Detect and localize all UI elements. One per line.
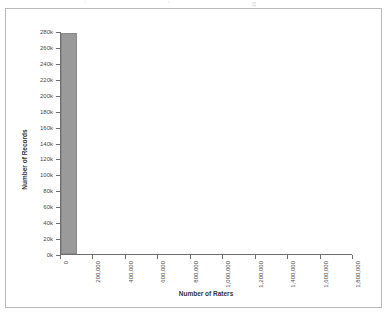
x-axis-tick (320, 255, 321, 259)
y-axis-tick (56, 175, 60, 176)
y-axis-tick-label: 40k (43, 220, 53, 226)
y-axis-tick (56, 144, 60, 145)
y-axis-tick-label: 0k (47, 252, 53, 258)
y-axis-tick (56, 80, 60, 81)
y-axis-tick (56, 112, 60, 113)
clipped-text-artifacts: ''g (0, 0, 388, 7)
plot-area: 0k20k40k60k80k100k120k140k160k180k200k22… (60, 32, 352, 255)
y-axis-tick (56, 239, 60, 240)
y-axis-tick (56, 128, 60, 129)
y-axis-tick-label: 200k (40, 93, 53, 99)
x-axis-tick-label: 1,200,000 (258, 261, 264, 288)
y-axis-tick (56, 48, 60, 49)
x-axis-tick-label: 600,000 (160, 261, 166, 283)
y-axis-tick-label: 280k (40, 29, 53, 35)
y-axis-tick-label: 20k (43, 236, 53, 242)
y-axis-tick-label: 160k (40, 125, 53, 131)
x-axis-tick-label: 800,000 (193, 261, 199, 283)
x-axis-tick (287, 255, 288, 259)
chart-figure-frame: Number of Records 0k20k40k60k80k100k120k… (5, 8, 382, 308)
y-axis-tick (56, 64, 60, 65)
x-axis-tick-label: 0 (63, 261, 69, 264)
y-axis-tick (56, 223, 60, 224)
x-axis-tick-label: 1,600,000 (323, 261, 329, 288)
clipped-glyph: g (252, 0, 256, 7)
x-axis-tick (222, 255, 223, 259)
x-axis-line (60, 254, 352, 255)
bar (61, 33, 77, 254)
y-axis-tick-label: 220k (40, 77, 53, 83)
y-axis-tick-label: 260k (40, 45, 53, 51)
x-axis-tick (190, 255, 191, 259)
x-axis-tick (352, 255, 353, 259)
y-axis-tick (56, 32, 60, 33)
y-axis-tick (56, 96, 60, 97)
x-axis-tick (125, 255, 126, 259)
y-axis-title-label: Number of Records (21, 129, 28, 189)
x-axis-title: Number of Raters (60, 290, 352, 297)
x-axis-tick-label: 200,000 (95, 261, 101, 283)
x-axis-tick (92, 255, 93, 259)
x-axis-tick-label: 1,400,000 (290, 261, 296, 288)
x-axis-tick-label: 400,000 (128, 261, 134, 283)
y-axis-tick (56, 207, 60, 208)
clipped-glyph: ' (84, 0, 85, 7)
y-axis-tick-label: 60k (43, 204, 53, 210)
x-axis-tick-label: 1,800,000 (355, 261, 361, 288)
y-axis-tick-label: 180k (40, 109, 53, 115)
y-axis-tick-label: 80k (43, 188, 53, 194)
y-axis-title: Number of Records (19, 9, 29, 309)
y-axis-tick-label: 140k (40, 141, 53, 147)
y-axis-tick (56, 191, 60, 192)
x-axis-tick-label: 1,000,000 (225, 261, 231, 288)
y-axis-tick-label: 120k (40, 156, 53, 162)
y-axis-tick-label: 100k (40, 172, 53, 178)
x-axis-tick (60, 255, 61, 259)
y-axis-tick (56, 159, 60, 160)
x-axis-tick (255, 255, 256, 259)
y-axis-tick-label: 240k (40, 61, 53, 67)
clipped-glyph: ' (168, 0, 169, 7)
x-axis-tick (157, 255, 158, 259)
